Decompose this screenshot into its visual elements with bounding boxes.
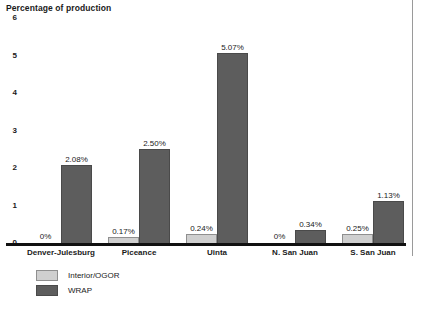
bar-wrap[interactable]: 2.08% [61, 165, 92, 243]
figure-right-rule [412, 0, 413, 256]
y-tick-5: 5 [13, 52, 17, 60]
bar-value-label: 0.34% [299, 221, 322, 229]
figure-caption [4, 305, 418, 312]
bar-wrap[interactable]: 2.50% [139, 149, 170, 243]
bar-value-label: 5.07% [221, 44, 244, 52]
y-tick-4: 4 [13, 89, 17, 97]
bar-value-label: 0% [274, 233, 286, 241]
legend-item-wrap[interactable]: WRAP [36, 283, 120, 298]
plot-area: 6 5 4 3 2 1 0 0% 2.08% Denver-Jul [22, 18, 412, 246]
y-tick-1: 1 [13, 202, 17, 210]
legend-label: Interior/OGOR [68, 272, 120, 280]
legend-swatch-icon [36, 285, 58, 296]
bar-slot-interior-ogor: 0.17% [108, 18, 139, 243]
category-label-s-san-juan: S. San Juan [350, 249, 395, 257]
bar-slot-wrap: 0.34% [295, 18, 326, 243]
bar-slot-wrap: 5.07% [217, 18, 248, 243]
legend-label: WRAP [68, 287, 92, 295]
bar-interior-ogor[interactable]: 0.25% [342, 234, 373, 243]
bar-wrap[interactable]: 1.13% [373, 201, 404, 243]
bar-value-label: 0.17% [112, 228, 135, 236]
bar-value-label: 0% [40, 233, 52, 241]
figure: Percentage of production 6 5 4 3 2 1 0 0… [0, 0, 422, 312]
bar-slot-wrap: 1.13% [373, 18, 404, 243]
y-tick-3: 3 [13, 127, 17, 135]
bar-group-uinta: 0.24% 5.07% Uinta [178, 18, 256, 243]
chart-title: Percentage of production [6, 3, 111, 13]
bar-value-label: 2.08% [65, 156, 88, 164]
bar-value-label: 0.24% [190, 225, 213, 233]
bar-group-denver-julesburg: 0% 2.08% Denver-Julesburg [22, 18, 100, 243]
bar-value-label: 2.50% [143, 140, 166, 148]
category-label-piceance: Piceance [122, 249, 157, 257]
bar-wrap[interactable]: 0.34% [295, 230, 326, 243]
bar-slot-interior-ogor: 0% [264, 18, 295, 243]
category-label-denver-julesburg: Denver-Julesburg [27, 249, 95, 257]
category-label-uinta: Uinta [207, 249, 227, 257]
legend-item-interior-ogor[interactable]: Interior/OGOR [36, 268, 120, 283]
category-label-n-san-juan: N. San Juan [272, 249, 318, 257]
bar-value-label: 0.25% [346, 225, 369, 233]
bar-slot-wrap: 2.50% [139, 18, 170, 243]
bar-wrap[interactable]: 5.07% [217, 53, 248, 243]
bar-slot-interior-ogor: 0% [30, 18, 61, 243]
bar-slot-interior-ogor: 0.25% [342, 18, 373, 243]
bar-group-n-san-juan: 0% 0.34% N. San Juan [256, 18, 334, 243]
bar-slot-wrap: 2.08% [61, 18, 92, 243]
x-axis-baseline [6, 243, 406, 246]
y-tick-6: 6 [13, 14, 17, 22]
bar-interior-ogor[interactable]: 0.24% [186, 234, 217, 243]
bar-slot-interior-ogor: 0.24% [186, 18, 217, 243]
bar-value-label: 1.13% [377, 192, 400, 200]
legend-swatch-icon [36, 270, 58, 281]
y-tick-2: 2 [13, 164, 17, 172]
bar-groups: 0% 2.08% Denver-Julesburg 0.17% [22, 18, 412, 243]
legend: Interior/OGOR WRAP [36, 268, 120, 298]
bar-group-s-san-juan: 0.25% 1.13% S. San Juan [334, 18, 412, 243]
bar-group-piceance: 0.17% 2.50% Piceance [100, 18, 178, 243]
